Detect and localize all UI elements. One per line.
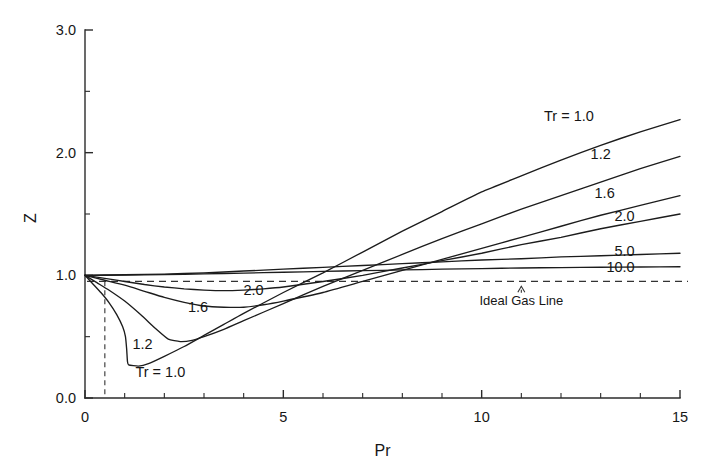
x-axis-title: Pr: [375, 442, 392, 459]
chart-canvas: 0.01.02.03.0 051015 Ideal Gas LineTr = 1…: [0, 0, 708, 472]
y-axis-title: Z: [22, 213, 39, 223]
x-axis-tick-label: 0: [81, 409, 89, 425]
chart-background: [0, 0, 708, 472]
y-axis-tick-label: 2.0: [56, 145, 76, 161]
curve-label-tr-1-6-right: 1.6: [595, 185, 615, 201]
x-axis-tick-label: 5: [279, 409, 287, 425]
curve-label-tr-1-6-left: 1.6: [188, 299, 208, 315]
y-axis-tick-label: 0.0: [56, 390, 76, 406]
x-axis-tick-label: 10: [474, 409, 490, 425]
curve-label-tr-10-0-right: 10.0: [606, 259, 634, 275]
curve-label-tr-5-0-right: 5.0: [614, 243, 634, 259]
curve-label-tr-1-0-left: Tr = 1.0: [135, 364, 185, 380]
ideal-gas-line-annotation: Ideal Gas Line: [479, 293, 563, 308]
curve-label-tr-2-0-left: 2.0: [243, 282, 263, 298]
curve-label-tr-1-2-left: 1.2: [132, 336, 152, 352]
y-axis-tick-label: 1.0: [56, 267, 76, 283]
curve-label-tr-2-0-right: 2.0: [614, 208, 634, 224]
curve-label-tr-1-0-right: Tr = 1.0: [544, 108, 594, 124]
y-axis-tick-label: 3.0: [56, 22, 76, 38]
compressibility-chart-figure: 0.01.02.03.0 051015 Ideal Gas LineTr = 1…: [0, 0, 708, 472]
curve-label-tr-1-2-right: 1.2: [591, 146, 611, 162]
x-axis-tick-label: 15: [672, 409, 688, 425]
